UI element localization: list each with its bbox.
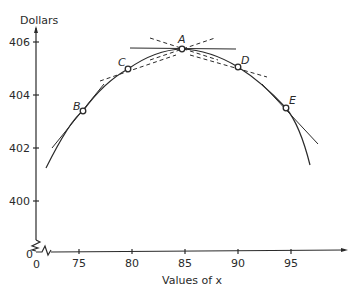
y-tick-404: 404 xyxy=(9,89,30,102)
x-tick-90: 90 xyxy=(231,257,245,270)
label-c: C xyxy=(118,56,126,69)
x-tick-75: 75 xyxy=(72,257,86,270)
y-axis xyxy=(32,26,40,251)
point-d xyxy=(235,64,241,70)
point-b xyxy=(80,108,86,114)
y-axis-label: Dollars xyxy=(20,14,59,27)
point-c xyxy=(125,66,131,72)
point-a xyxy=(179,46,185,52)
x-tick-95: 95 xyxy=(284,257,298,270)
x-axis xyxy=(36,246,348,255)
y-tick-400: 400 xyxy=(9,195,30,208)
curve xyxy=(46,49,310,168)
y-tick-402: 402 xyxy=(9,142,30,155)
point-e xyxy=(283,105,289,111)
y-tick-406: 406 xyxy=(9,36,30,49)
x-axis-label: Values of x xyxy=(162,274,223,287)
label-e: E xyxy=(289,94,296,107)
label-d: D xyxy=(241,54,249,67)
x-tick-85: 85 xyxy=(178,257,192,270)
label-a: A xyxy=(177,33,186,46)
y-zero-label: 0 xyxy=(26,248,33,261)
label-b: B xyxy=(73,100,81,113)
x-zero-label: 0 xyxy=(33,258,40,271)
chart: Dollars 406 404 402 400 0 0 75 80 85 90 … xyxy=(0,0,363,291)
x-tick-80: 80 xyxy=(125,257,139,270)
tangent-lines xyxy=(52,38,318,148)
